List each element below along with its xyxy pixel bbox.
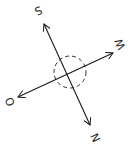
center-dashed-circle (54, 56, 86, 88)
compass-diagram: S W O N (0, 0, 128, 147)
label-s: S (32, 3, 44, 18)
w-o-axis-arrow (18, 53, 113, 97)
label-o: O (2, 95, 18, 109)
label-w: W (112, 36, 128, 51)
label-n: N (88, 131, 103, 144)
